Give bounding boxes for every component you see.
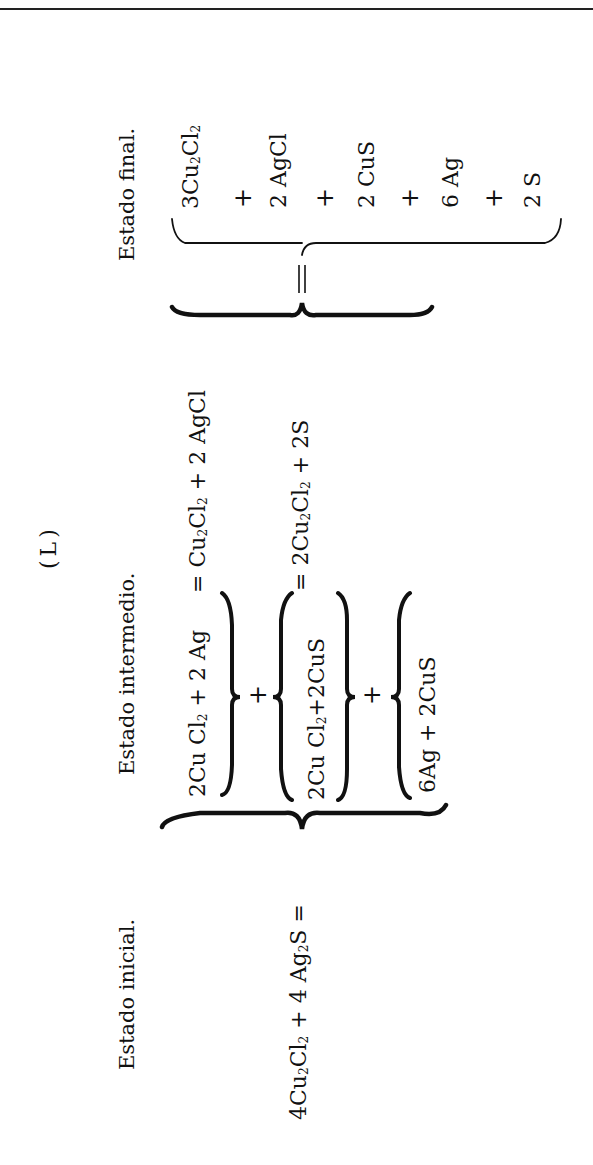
intermediate-plus-1: + <box>246 685 270 705</box>
header-rule <box>0 8 593 10</box>
figure-label: (L) <box>38 525 60 569</box>
initial-equation: 4Cu2Cl2 + 4 Ag2S = <box>288 904 310 1120</box>
intermediate-plus-2: + <box>360 685 384 705</box>
final-plus-4: + <box>482 188 506 208</box>
intermediate-row-3-lhs: 6Ag + 2CuS <box>417 657 439 793</box>
final-plus-1: + <box>231 188 255 208</box>
intermediate-row-2-rhs: = 2Cu2Cl2 + 2S <box>290 420 312 591</box>
final-state-label: Estado final. <box>117 128 138 261</box>
final-item-4: 6 Ag <box>440 157 462 208</box>
intermediate-row-1-rhs: = Cu2Cl2 + 2 AgCl <box>187 390 209 593</box>
rotated-page: (L) Estado inicial. 4Cu2Cl2 + 4 Ag2S = E… <box>0 0 593 1165</box>
initial-state-label: Estado inicial. <box>117 919 138 1070</box>
final-item-3: 2 CuS <box>356 141 378 208</box>
final-plus-3: + <box>398 188 422 208</box>
final-item-2: 2 AgCl <box>268 133 290 208</box>
final-item-5: 2 S <box>522 172 544 208</box>
intermediate-state-label: Estado intermedio. <box>117 573 138 775</box>
final-item-1: 3Cu2Cl2 <box>180 125 202 209</box>
final-plus-2: + <box>313 188 337 208</box>
intermediate-row-2-lhs: 2Cu Cl2+2CuS <box>306 638 328 800</box>
intermediate-row-1-lhs: 2Cu Cl2 + 2 Ag <box>187 630 209 797</box>
